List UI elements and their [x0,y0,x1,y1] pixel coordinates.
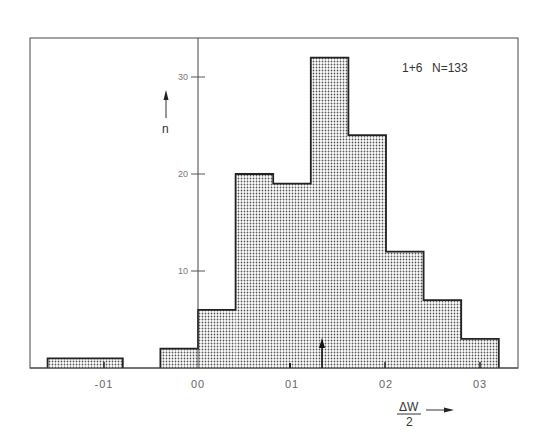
legend-n: N=133 [432,61,468,75]
y-axis-label-group: n [162,90,169,136]
y-axis-label: n [162,122,169,136]
x-tick-label: 03 [473,378,487,390]
legend: 1+6 N=133 [402,61,468,75]
histogram-chart: 102030 -0100010203 n 1+6 N=133 ΔW 2 [0,0,555,442]
histogram-bar [424,300,462,368]
legend-label: 1+6 [402,61,423,75]
x-axis-label-numerator: ΔW [399,400,419,414]
x-tick-label: 02 [379,378,393,390]
y-tick-label: 30 [178,72,188,82]
histogram-bars [30,58,518,368]
y-tick-label: 20 [178,169,188,179]
x-axis-label-denominator: 2 [406,415,413,429]
x-tick-label: 00 [191,378,205,390]
x-tick-label: 01 [285,378,299,390]
histogram-bar [311,58,349,368]
y-axis-ticks: 102030 [178,72,205,276]
histogram-bar [198,310,236,368]
histogram-bar [160,349,198,368]
histogram-bar [273,184,311,368]
x-tick-label: -01 [95,378,114,390]
y-tick-label: 10 [178,266,188,276]
histogram-bar [48,358,86,368]
x-axis-ticks: -0100010203 [95,378,488,390]
histogram-bar [386,252,424,368]
histogram-bar [348,135,386,368]
x-axis-label-group: ΔW 2 [397,400,454,429]
histogram-bar [236,174,274,368]
